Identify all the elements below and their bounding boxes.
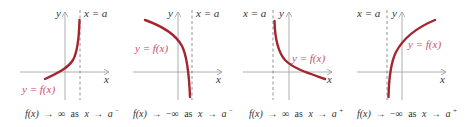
y-axis-label: y bbox=[55, 7, 61, 19]
x-axis-label: x bbox=[215, 73, 221, 85]
asymptote-label: x = a bbox=[242, 7, 267, 19]
panel-1: y x = a x y = f(x) f(x) → ∞ as x → a − bbox=[20, 7, 119, 120]
caption: f(x) → ∞ as x → a + bbox=[249, 107, 343, 120]
caption: f(x) → −∞ as x → a + bbox=[357, 107, 457, 120]
asymptote-label: x = a bbox=[356, 7, 381, 19]
y-axis-label: y bbox=[391, 7, 397, 19]
function-curve bbox=[389, 20, 436, 97]
y-axis-label: y bbox=[167, 7, 173, 19]
panel-2: y x = a x y = f(x) f(x) → −∞ as x → a − bbox=[133, 7, 233, 120]
caption: f(x) → −∞ as x → a − bbox=[133, 107, 233, 120]
y-axis-label: y bbox=[278, 7, 284, 19]
asymptote-label: x = a bbox=[83, 7, 108, 19]
asymptote-label: x = a bbox=[195, 7, 220, 19]
panel-3: x = a y x y = f(x) f(x) → ∞ as x → a + bbox=[242, 7, 343, 120]
curve-label: y = f(x) bbox=[21, 83, 55, 96]
function-curve bbox=[45, 20, 80, 79]
vertical-asymptote-diagram: y x = a x y = f(x) f(x) → ∞ as x → a − y… bbox=[0, 0, 465, 127]
curve-label: y = f(x) bbox=[291, 52, 325, 65]
caption: f(x) → ∞ as x → a − bbox=[25, 107, 119, 120]
curve-label: y = f(x) bbox=[407, 38, 441, 51]
curve-label: y = f(x) bbox=[134, 42, 168, 55]
panel-4: x = a y x y = f(x) f(x) → −∞ as x → a + bbox=[356, 7, 457, 120]
x-axis-label: x bbox=[439, 73, 445, 85]
function-curve bbox=[275, 21, 326, 79]
x-axis-label: x bbox=[326, 73, 332, 85]
function-curve bbox=[145, 20, 190, 97]
x-axis-label: x bbox=[103, 73, 109, 85]
